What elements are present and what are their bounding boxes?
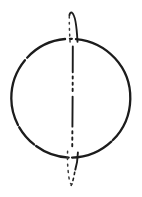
figure-canvas	[0, 0, 142, 197]
engraving-figure	[0, 0, 142, 197]
meridian-edge-axis	[72, 47, 73, 152]
sphere-outline	[11, 39, 130, 158]
meridian-front-bottom-arc	[75, 153, 78, 170]
meridian-back-top-arc	[69, 17, 70, 46]
meridian-front-top-arc	[69, 13, 77, 42]
meridian-back-bottom-arc	[67, 151, 72, 184]
